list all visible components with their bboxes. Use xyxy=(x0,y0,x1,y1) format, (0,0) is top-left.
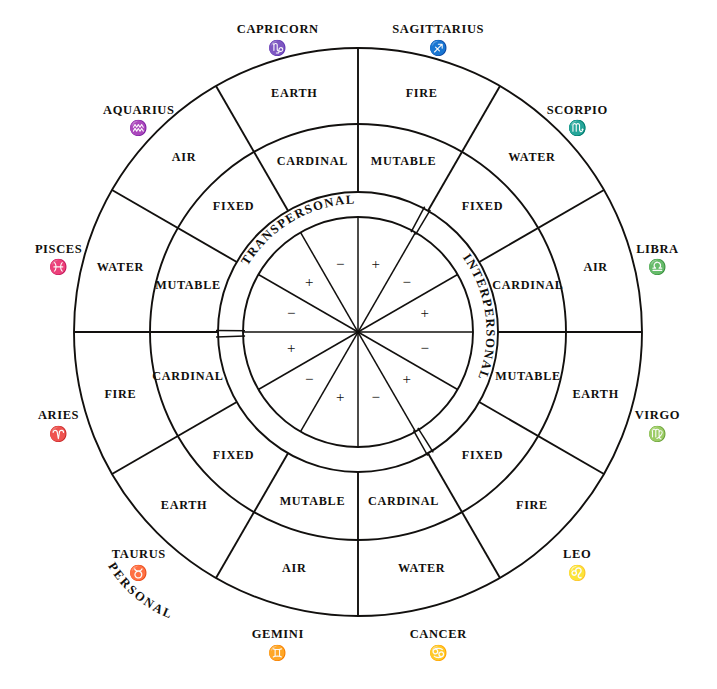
polarity-sagittarius: + xyxy=(372,256,380,272)
sign-glyph-capricorn-icon: ♑ xyxy=(268,39,287,57)
sign-glyph-gemini-icon: ♊ xyxy=(268,644,287,662)
sign-name-gemini: GEMINI xyxy=(252,627,304,641)
element-label-aries: FIRE xyxy=(104,387,136,401)
sign-glyph-aquarius-icon: ♒ xyxy=(129,119,148,137)
sign-name-pisces: PISCES xyxy=(35,242,82,256)
sign-glyph-scorpio-icon: ♏ xyxy=(568,119,587,137)
sector-divider-outer xyxy=(216,86,288,211)
polarity-libra: + xyxy=(420,305,428,321)
sign-name-aries: ARIES xyxy=(38,408,79,422)
sign-name-virgo: VIRGO xyxy=(635,408,680,422)
sign-glyph-sagittarius-icon: ♐ xyxy=(429,39,448,57)
quality-label-pisces: MUTABLE xyxy=(155,278,221,292)
sign-name-aquarius: AQUARIUS xyxy=(103,103,174,117)
quality-label-aries: CARDINAL xyxy=(152,369,223,383)
element-label-leo: FIRE xyxy=(516,498,548,512)
band-divider-mark xyxy=(416,210,431,235)
polarity-leo: + xyxy=(403,371,411,387)
element-label-pisces: WATER xyxy=(97,260,144,274)
element-label-sagittarius: FIRE xyxy=(406,86,438,100)
sector-divider-outer xyxy=(216,453,288,578)
element-label-capricorn: EARTH xyxy=(271,86,317,100)
polarity-scorpio: − xyxy=(403,274,411,290)
quality-label-leo: FIXED xyxy=(462,448,503,462)
sign-glyph-libra-icon: ♎ xyxy=(648,258,667,276)
sign-glyph-taurus-icon: ♉ xyxy=(129,564,148,582)
element-label-scorpio: WATER xyxy=(508,150,555,164)
sign-name-libra: LIBRA xyxy=(636,242,679,256)
sector-divider-outer xyxy=(479,402,604,474)
sign-glyph-cancer-icon: ♋ xyxy=(429,644,448,662)
quality-label-sagittarius: MUTABLE xyxy=(371,154,437,168)
sector-divider-outer xyxy=(428,86,500,211)
element-label-gemini: AIR xyxy=(282,561,306,575)
quality-label-capricorn: CARDINAL xyxy=(277,154,348,168)
quality-label-gemini: MUTABLE xyxy=(280,494,346,508)
quality-label-aquarius: FIXED xyxy=(213,199,254,213)
band-divider-mark xyxy=(216,336,245,337)
element-label-virgo: EARTH xyxy=(572,387,618,401)
sign-name-leo: LEO xyxy=(563,547,591,561)
polarity-cancer: − xyxy=(372,389,380,405)
band-label-interpersonal: INTERPERSONAL xyxy=(460,251,497,383)
polarity-aries: + xyxy=(287,340,295,356)
element-label-aquarius: AIR xyxy=(172,150,196,164)
sign-name-scorpio: SCORPIO xyxy=(547,103,608,117)
sector-divider-outer xyxy=(112,402,237,474)
polarity-aquarius: + xyxy=(305,274,313,290)
quality-label-taurus: FIXED xyxy=(213,448,254,462)
polarity-taurus: − xyxy=(305,371,313,387)
sign-glyph-aries-icon: ♈ xyxy=(49,425,68,443)
polarity-virgo: − xyxy=(420,340,428,356)
quality-label-cancer: CARDINAL xyxy=(368,494,439,508)
sign-name-capricorn: CAPRICORN xyxy=(237,22,319,36)
quality-label-scorpio: FIXED xyxy=(462,199,503,213)
zodiac-wheel-svg: SAGITTARIUS♐CAPRICORN♑AQUARIUS♒PISCES♓AR… xyxy=(0,0,717,689)
sign-name-sagittarius: SAGITTARIUS xyxy=(392,22,484,36)
sign-glyph-pisces-icon: ♓ xyxy=(49,258,68,276)
band-divider-mark xyxy=(413,430,427,455)
sign-glyph-leo-icon: ♌ xyxy=(568,564,587,582)
element-label-libra: AIR xyxy=(583,260,607,274)
polarity-pisces: − xyxy=(287,305,295,321)
band-divider-mark xyxy=(411,207,425,233)
sign-name-taurus: TAURUS xyxy=(112,547,166,561)
quality-label-libra: CARDINAL xyxy=(492,278,563,292)
sector-divider-outer xyxy=(428,453,500,578)
zodiac-wheel-diagram: SAGITTARIUS♐CAPRICORN♑AQUARIUS♒PISCES♓AR… xyxy=(0,0,717,689)
sign-glyph-virgo-icon: ♍ xyxy=(648,425,667,443)
polarity-capricorn: − xyxy=(336,256,344,272)
polarity-gemini: + xyxy=(336,389,344,405)
element-label-cancer: WATER xyxy=(398,561,445,575)
band-divider-mark xyxy=(418,428,433,453)
element-label-taurus: EARTH xyxy=(161,498,207,512)
sector-spokes xyxy=(74,48,642,616)
sign-name-cancer: CANCER xyxy=(410,627,467,641)
quality-label-virgo: MUTABLE xyxy=(495,369,561,383)
